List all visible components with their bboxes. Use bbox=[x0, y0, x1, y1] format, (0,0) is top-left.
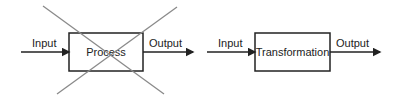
transformation-diagram: Input Transformation Output bbox=[207, 33, 380, 71]
process-diagram: Input Process Output bbox=[21, 6, 193, 94]
cross-line-2 bbox=[57, 7, 177, 94]
cross-line-1 bbox=[43, 6, 164, 94]
transformation-label: Transformation bbox=[256, 46, 330, 58]
input-label: Input bbox=[218, 37, 242, 49]
output-label: Output bbox=[149, 37, 182, 49]
input-label: Input bbox=[32, 37, 56, 49]
output-label: Output bbox=[336, 37, 369, 49]
diagram-canvas: Input Process Output Input Transformatio… bbox=[0, 0, 397, 102]
